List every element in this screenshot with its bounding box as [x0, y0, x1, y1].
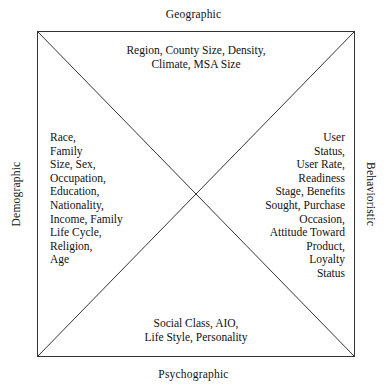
segmentation-diagram: Geographic Demographic Behavioristic Psy…: [0, 0, 387, 388]
axis-label-behavioristic: Behavioristic: [365, 162, 377, 226]
quadrant-text-behavioristic: User Status, User Rate, Readiness Stage,…: [235, 131, 345, 281]
axis-label-geographic: Geographic: [0, 8, 387, 20]
quadrant-text-demographic: Race, Family Size, Sex, Occupation, Educ…: [50, 131, 160, 267]
quadrant-text-geographic: Region, County Size, Density, Climate, M…: [77, 44, 315, 71]
axis-label-demographic: Demographic: [10, 162, 22, 227]
axis-label-psychographic: Psychographic: [0, 368, 387, 380]
quadrant-text-psychographic: Social Class, AIO, Life Style, Personali…: [77, 317, 315, 344]
